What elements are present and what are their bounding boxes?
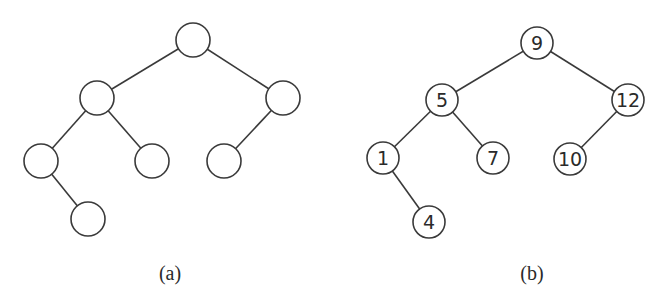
tree-node bbox=[176, 23, 210, 57]
node-key: 5 bbox=[436, 89, 448, 111]
tree-node bbox=[71, 202, 105, 236]
node-key: 7 bbox=[487, 147, 499, 169]
tree-node bbox=[266, 81, 300, 115]
node-key: 12 bbox=[616, 89, 640, 111]
node-key: 4 bbox=[423, 211, 435, 233]
node-key: 9 bbox=[531, 32, 543, 54]
tree-node bbox=[207, 144, 241, 178]
figure-caption-a: (a) bbox=[159, 262, 181, 285]
tree-node bbox=[24, 144, 58, 178]
tree-node bbox=[80, 81, 114, 115]
figure-caption-b: (b) bbox=[520, 262, 543, 285]
node-key: 1 bbox=[377, 147, 389, 169]
node-key: 10 bbox=[558, 148, 582, 170]
binary-tree-figure: (a) 951217104(b) bbox=[0, 0, 670, 306]
tree-b: 951217104(b) bbox=[367, 27, 644, 285]
tree-a: (a) bbox=[24, 23, 300, 285]
tree-node bbox=[135, 144, 169, 178]
